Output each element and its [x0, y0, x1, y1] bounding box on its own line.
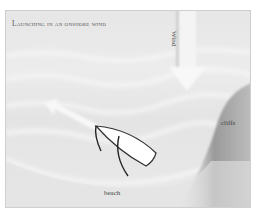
course-arrow-icon — [44, 98, 102, 133]
wind-label: Wind — [170, 31, 178, 46]
diagram-title: Launching in an onshore wind — [12, 19, 106, 28]
beach-label: beach — [104, 189, 120, 197]
cliffs-label: cliffs — [221, 119, 235, 127]
diagram-frame: Launching in an onshore wind Wind cliffs… — [5, 10, 251, 208]
boat-icon — [96, 126, 156, 176]
diagram-illustration — [6, 11, 251, 208]
